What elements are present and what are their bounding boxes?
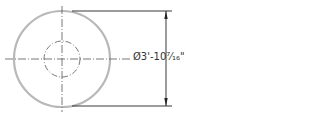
diameter-dimension-label: Ø3'-10⁷⁄₁₆" [133, 51, 185, 62]
arrow-down-icon [164, 98, 167, 106]
arrow-up-icon [164, 11, 167, 19]
